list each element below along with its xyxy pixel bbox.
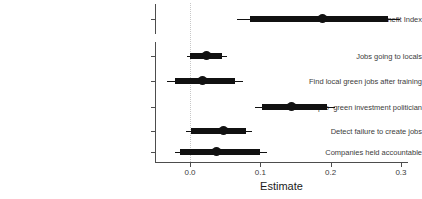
point-estimate-marker — [219, 126, 228, 135]
point-estimate-marker — [202, 51, 211, 60]
coefficient-plot-figure: Local Benefit Index Jobs going to locals… — [0, 0, 422, 199]
interval-row-local-benefit-index — [0, 11, 422, 27]
x-tick-label-3: 0.3 — [386, 168, 416, 177]
x-tick-2 — [331, 163, 332, 167]
interval-row-find-local-green-jobs-after-training — [0, 73, 422, 89]
interval-row-jobs-going-to-locals — [0, 48, 422, 64]
x-tick-0 — [190, 163, 191, 167]
x-tick-label-1: 0.1 — [245, 168, 275, 177]
x-tick-3 — [401, 163, 402, 167]
x-tick-label-0: 0.0 — [175, 168, 205, 177]
interval-row-detect-failure-to-create-jobs — [0, 123, 422, 139]
interval-row-companies-held-accountable — [0, 144, 422, 160]
point-estimate-marker — [287, 102, 296, 111]
x-tick-label-2: 0.2 — [316, 168, 346, 177]
plot-panel: Local Benefit Index Jobs going to locals… — [0, 0, 422, 199]
x-axis-line — [155, 162, 408, 163]
point-estimate-marker — [318, 14, 327, 23]
x-tick-1 — [260, 163, 261, 167]
point-estimate-marker — [212, 147, 221, 156]
x-axis-title: Estimate — [155, 180, 408, 192]
point-estimate-marker — [198, 76, 207, 85]
interval-row-vote-for-pro-green-investment-politician — [0, 99, 422, 115]
